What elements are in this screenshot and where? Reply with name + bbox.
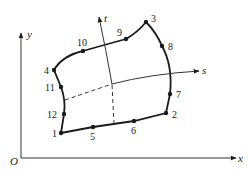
node-6: [132, 119, 136, 123]
node-labels: 1 2 3 4 5 6 7 8 9 10 11 12: [44, 13, 181, 142]
node-label-12: 12: [47, 109, 57, 120]
x-axis-label: x: [237, 152, 243, 164]
node-label-3: 3: [151, 13, 156, 24]
node-1: [59, 131, 63, 135]
origin-label: O: [10, 155, 18, 167]
node-label-6: 6: [131, 125, 136, 136]
nodes: [52, 20, 172, 135]
node-label-2: 2: [172, 109, 177, 120]
node-label-11: 11: [45, 82, 55, 93]
t-axis-label: t: [104, 12, 108, 24]
node-label-10: 10: [77, 37, 87, 48]
node-label-7: 7: [176, 89, 181, 100]
s-axis-solid: [112, 71, 199, 84]
isoparametric-element-diagram: y x O t s 1 2 3 4 5 6 7 8 9 10 11 12: [0, 0, 249, 174]
node-11: [59, 85, 63, 89]
node-label-9: 9: [117, 27, 122, 38]
node-3: [144, 20, 148, 24]
node-12: [62, 112, 66, 116]
node-10: [81, 49, 85, 53]
node-9: [124, 37, 128, 41]
node-5: [91, 125, 95, 129]
node-7: [168, 92, 172, 96]
t-axis-dashed: [112, 84, 114, 124]
node-2: [164, 111, 168, 115]
node-label-5: 5: [90, 131, 95, 142]
element-boundary: [54, 22, 171, 133]
s-axis-label: s: [202, 64, 206, 76]
y-axis-label: y: [26, 28, 32, 40]
node-4: [52, 68, 56, 72]
s-axis-dashed: [65, 84, 112, 100]
node-label-1: 1: [52, 128, 57, 139]
node-label-4: 4: [44, 65, 49, 76]
node-8: [160, 44, 164, 48]
node-label-8: 8: [168, 41, 173, 52]
t-axis-solid: [99, 17, 112, 84]
